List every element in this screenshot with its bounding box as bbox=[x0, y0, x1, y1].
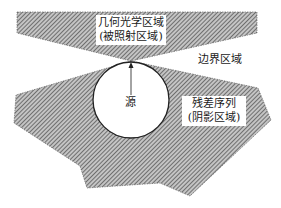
shadow-region-label: 残差序列 (阴影区域) bbox=[182, 96, 246, 126]
illuminated-region-title: 几何光学区域 bbox=[96, 16, 166, 30]
boundary-region-label: 边界区域 bbox=[198, 53, 242, 67]
illuminated-region-label: 几何光学区域 (被照射区域) bbox=[96, 15, 166, 45]
illuminated-region-subtitle: (被照射区域) bbox=[96, 30, 166, 44]
shadow-region-title: 残差序列 bbox=[182, 97, 246, 111]
shadow-region-subtitle: (阴影区域) bbox=[182, 111, 246, 125]
source-label: 源 bbox=[125, 96, 136, 110]
